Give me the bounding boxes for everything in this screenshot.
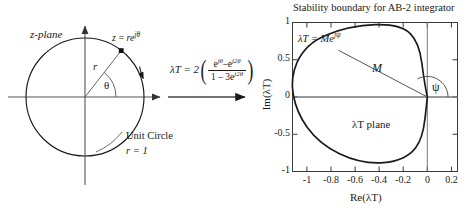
mapping-open-paren: ( [201, 57, 207, 84]
y-tick-label-0: 0 [282, 90, 290, 100]
annotation-lambda-plane-label: λT plane [352, 119, 390, 130]
mapping-denominator: 1 – 3ej2θ [208, 71, 246, 83]
stability-boundary-curve [292, 25, 427, 163]
z-point-label: z = rejθ [112, 32, 140, 43]
plot-zero-axes [293, 23, 458, 172]
y-axis-label-text: Im(λT) [260, 79, 272, 111]
theta-label: θ [104, 80, 109, 91]
plot-x-axis-label: Re(λT) [350, 192, 382, 203]
unit-circle-leader [96, 132, 122, 152]
x-tick-label-neg1: -1 [300, 175, 314, 185]
z-plane-label: z-plane [30, 29, 62, 40]
z-point-marker [119, 48, 124, 53]
annotation-lambda-text: λT = Me [298, 33, 334, 44]
mapping-num-term2: –e [223, 60, 232, 70]
y-tick-label-neg0p5: -0.5 [263, 128, 290, 138]
mapping-expression: λT = 2(ejθ–ej2θ1 – 3ej2θ) [170, 57, 255, 84]
plot-title: Stability boundary for AB-2 integrator [293, 3, 455, 14]
unit-circle-label: Unit Circle [126, 131, 173, 142]
z-plane-axes [8, 26, 160, 185]
mapping-lhs: λT = 2 [170, 63, 199, 75]
x-tick-label-neg0p2: -0.2 [390, 175, 416, 185]
x-axis-label-text: Re(λT) [350, 191, 382, 203]
annotation-M-label: M [372, 62, 382, 74]
x-tick-label-0: 0 [421, 175, 434, 185]
annotation-lambda-polar: λT = Mejψ [298, 31, 341, 44]
annotation-psi-label: ψ [432, 81, 440, 93]
annotation-lambda-exponent: jψ [334, 30, 341, 39]
annotation-plane-text: λT plane [352, 118, 390, 130]
M-vector-line [339, 50, 428, 97]
z-point-label-eq: = [116, 32, 127, 43]
plot-y-axis-label: Im(λT) [261, 60, 272, 130]
mapping-num-term2-exp: j2θ [232, 57, 241, 64]
unit-circle-radius-label: r = 1 [126, 146, 148, 157]
x-tick-label-neg0p6: -0.6 [342, 175, 368, 185]
x-tick-label-0p2: 0.2 [440, 175, 463, 185]
mapping-fraction: ejθ–ej2θ1 – 3ej2θ [208, 58, 246, 82]
y-tick-label-1: 1 [282, 16, 290, 26]
x-tick-label-neg0p8: -0.8 [318, 175, 344, 185]
x-tick-label-neg0p4: -0.4 [366, 175, 392, 185]
mapping-den-term1-exp: j2θ [234, 70, 243, 77]
z-point-label-exponent: jθ [135, 31, 141, 39]
mapping-close-paren: ) [248, 57, 254, 84]
mapping-den-term1: 1 – 3e [211, 72, 234, 82]
y-tick-label-neg1: -1 [276, 165, 290, 175]
figure-root: z-plane z = rejθ r θ Unit Circle r = 1 λ… [0, 0, 471, 217]
z-point-label-expr: re [127, 32, 135, 43]
radius-label: r [93, 61, 97, 72]
